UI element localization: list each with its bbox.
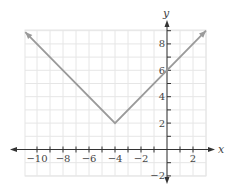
x-tick-label: −8 — [56, 153, 71, 164]
graph-absolute-value: −10−8−6−4−228642−2 x y — [0, 0, 234, 189]
y-tick-label: 2 — [159, 118, 165, 129]
coordinate-plane: −10−8−6−4−228642−2 x y — [0, 0, 234, 189]
y-tick-label: −2 — [150, 170, 165, 181]
x-tick-label: −4 — [108, 153, 123, 164]
x-axis-label: x — [218, 143, 225, 156]
x-tick-label: −10 — [26, 153, 47, 164]
y-tick-label: 4 — [159, 91, 165, 102]
x-tick-label: 2 — [190, 153, 196, 164]
x-tick-label: −2 — [134, 153, 149, 164]
y-tick-label: 8 — [159, 38, 165, 49]
x-tick-label: −6 — [82, 153, 97, 164]
function-curve — [25, 31, 206, 123]
y-axis-label: y — [162, 7, 170, 20]
